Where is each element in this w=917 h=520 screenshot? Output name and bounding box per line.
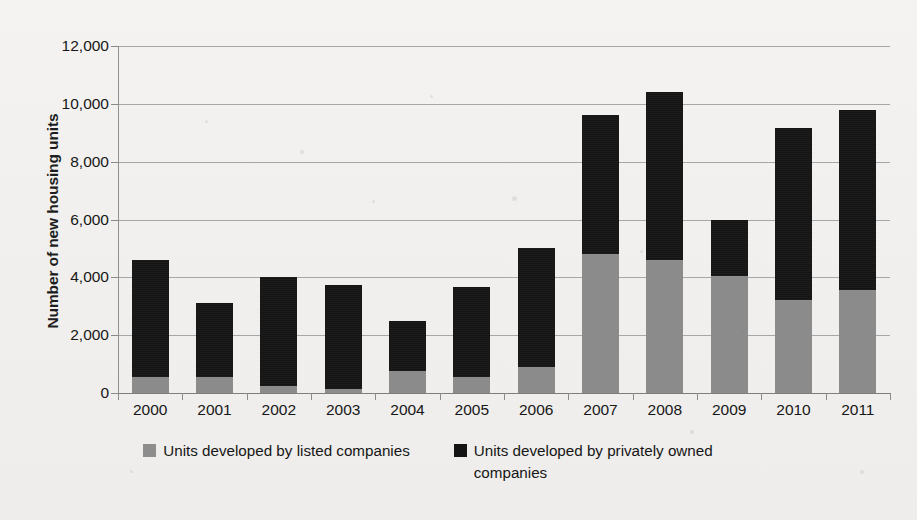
x-tick-label: 2001 — [197, 401, 231, 419]
bar-group — [325, 46, 362, 393]
x-tick-label: 2006 — [519, 401, 553, 419]
x-tick-label: 2002 — [262, 401, 296, 419]
bar-segment-private — [582, 115, 619, 254]
bar-stack — [582, 115, 619, 393]
bar-segment-private — [646, 92, 683, 260]
x-tick-mark — [504, 393, 505, 400]
bar-segment-listed — [518, 367, 555, 393]
bar-stack — [260, 277, 297, 393]
y-tick-label: 8,000 — [10, 153, 118, 171]
x-tick-mark — [633, 393, 634, 400]
legend-label: Units developed by privately owned compa… — [474, 440, 774, 483]
x-tick-label: 2005 — [455, 401, 489, 419]
x-tick-mark — [375, 393, 376, 400]
y-tick-label: 12,000 — [10, 37, 118, 55]
bar-stack — [132, 260, 169, 393]
bar-segment-listed — [260, 386, 297, 393]
x-axis-ticks: 2000200120022003200420052006200720082009… — [118, 393, 890, 423]
bar-stack — [646, 92, 683, 393]
bar-segment-listed — [711, 276, 748, 393]
y-tick-label: 4,000 — [10, 268, 118, 286]
stacked-bar-chart: Number of new housing units 02,0004,0006… — [0, 0, 917, 520]
bar-stack — [325, 285, 362, 393]
bar-segment-private — [453, 287, 490, 377]
legend-item[interactable]: Units developed by listed companies — [143, 440, 410, 462]
x-tick-label: 2004 — [390, 401, 424, 419]
bar-group — [518, 46, 555, 393]
y-tick-label: 2,000 — [10, 326, 118, 344]
bar-group — [839, 46, 876, 393]
bar-segment-private — [132, 260, 169, 377]
bar-stack — [711, 220, 748, 393]
bar-segment-listed — [196, 377, 233, 393]
bar-segment-private — [711, 220, 748, 276]
bar-segment-private — [260, 277, 297, 385]
bar-group — [582, 46, 619, 393]
bar-group — [453, 46, 490, 393]
x-tick-label: 2009 — [712, 401, 746, 419]
x-tick-label: 2010 — [776, 401, 810, 419]
bar-segment-listed — [453, 377, 490, 393]
x-tick-label: 2003 — [326, 401, 360, 419]
x-tick-mark — [890, 393, 891, 400]
x-tick-label: 2000 — [133, 401, 167, 419]
bar-group — [711, 46, 748, 393]
bar-stack — [518, 248, 555, 393]
x-tick-mark — [182, 393, 183, 400]
bar-segment-listed — [775, 300, 812, 393]
bar-group — [260, 46, 297, 393]
y-tick-label: 10,000 — [10, 95, 118, 113]
bar-segment-private — [775, 128, 812, 300]
chart-legend: Units developed by listed companiesUnits… — [0, 440, 917, 483]
bar-segment-private — [325, 285, 362, 389]
bar-group — [132, 46, 169, 393]
y-tick-label: 6,000 — [10, 211, 118, 229]
bar-group — [196, 46, 233, 393]
x-tick-label: 2008 — [648, 401, 682, 419]
bar-segment-private — [196, 303, 233, 377]
bar-segment-private — [839, 110, 876, 291]
bar-stack — [389, 321, 426, 393]
x-tick-label: 2011 — [841, 401, 874, 419]
x-tick-mark — [440, 393, 441, 400]
bar-stack — [196, 303, 233, 393]
bar-stack — [775, 128, 812, 393]
x-tick-mark — [568, 393, 569, 400]
x-tick-mark — [247, 393, 248, 400]
bar-group — [646, 46, 683, 393]
bar-segment-private — [518, 248, 555, 367]
bar-segment-listed — [132, 377, 169, 393]
bars-layer — [118, 46, 890, 393]
bar-segment-listed — [389, 371, 426, 393]
x-tick-mark — [697, 393, 698, 400]
bar-segment-listed — [839, 290, 876, 393]
x-tick-mark — [826, 393, 827, 400]
x-tick-mark — [118, 393, 119, 400]
bar-segment-listed — [582, 254, 619, 393]
bar-group — [389, 46, 426, 393]
bar-group — [775, 46, 812, 393]
y-tick-label: 0 — [10, 384, 118, 402]
bar-stack — [453, 287, 490, 393]
bar-stack — [839, 110, 876, 393]
legend-swatch-listed-icon — [143, 444, 156, 457]
bar-segment-listed — [646, 260, 683, 393]
legend-swatch-private-icon — [454, 444, 467, 457]
bar-segment-private — [389, 321, 426, 372]
legend-item[interactable]: Units developed by privately owned compa… — [454, 440, 774, 483]
legend-label: Units developed by listed companies — [163, 440, 410, 462]
x-tick-mark — [761, 393, 762, 400]
x-tick-label: 2007 — [583, 401, 617, 419]
scan-speckle — [690, 430, 694, 434]
x-tick-mark — [311, 393, 312, 400]
